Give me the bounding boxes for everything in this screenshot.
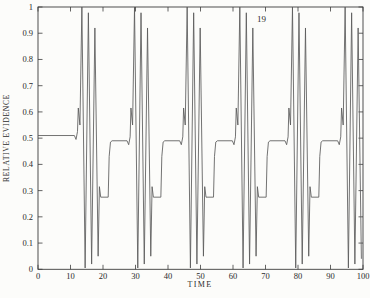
x-tick-label: 100 <box>357 271 370 281</box>
y-tick-label: 0.1 <box>22 238 33 248</box>
y-tick-label: 0.4 <box>22 159 33 169</box>
y-tick-label: 0.8 <box>22 54 33 64</box>
curve-annotation: 19 <box>257 14 267 24</box>
x-tick-label: 20 <box>99 271 108 281</box>
x-tick-label: 70 <box>261 271 270 281</box>
x-tick-label: 0 <box>36 271 40 281</box>
chart-canvas: 0102030405060708090100 00.10.20.30.40.50… <box>0 0 370 298</box>
x-tick-label: 80 <box>294 271 303 281</box>
x-tick-label: 90 <box>326 271 335 281</box>
figure: 0102030405060708090100 00.10.20.30.40.50… <box>0 0 370 298</box>
x-axis-title: TIME <box>187 280 212 289</box>
y-tick-label: 0.2 <box>22 212 33 222</box>
y-tick-label: 0.6 <box>22 107 33 117</box>
y-tick-label: 1 <box>29 2 33 12</box>
y-tick-label: 0 <box>29 264 33 274</box>
y-tick-label: 0.5 <box>22 133 33 143</box>
y-tick-label: 0.3 <box>22 186 33 196</box>
curve-line <box>38 7 361 268</box>
y-axis-title: RELATIVE EVIDENCE <box>2 94 11 182</box>
x-tick-label: 40 <box>164 271 173 281</box>
x-tick-label: 30 <box>131 271 140 281</box>
y-tick-label: 0.9 <box>22 28 33 38</box>
y-tick-label: 0.7 <box>22 81 33 91</box>
y-axis-tick-labels: 00.10.20.30.40.50.60.70.80.91 <box>22 2 33 274</box>
x-tick-label: 10 <box>66 271 75 281</box>
x-tick-label: 60 <box>229 271 238 281</box>
